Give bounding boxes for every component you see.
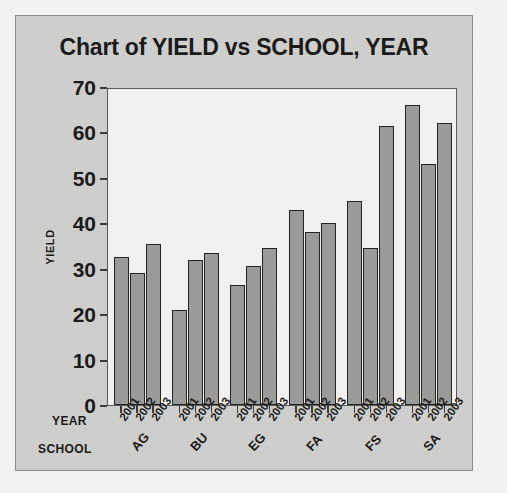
bar-series-container xyxy=(108,89,456,405)
bar-group xyxy=(225,89,283,405)
y-axis-tick-mark xyxy=(100,178,107,180)
scanned-page: Chart of YIELD vs SCHOOL, YEAR YIELD 010… xyxy=(0,0,507,493)
bar xyxy=(379,126,394,405)
chart-panel: Chart of YIELD vs SCHOOL, YEAR YIELD 010… xyxy=(15,15,473,471)
bar xyxy=(305,232,320,405)
bar xyxy=(230,285,245,405)
y-axis-tick-mark xyxy=(100,223,107,225)
bar xyxy=(262,248,277,405)
y-axis-tick-label: 10 xyxy=(73,349,96,373)
bar-group xyxy=(283,89,341,405)
y-axis-tick-label: 30 xyxy=(73,258,96,282)
plot-area xyxy=(107,88,457,406)
bar-group xyxy=(400,89,458,405)
y-axis-tick-mark xyxy=(100,314,107,316)
y-axis-tick-label: 70 xyxy=(73,76,96,100)
bar-group xyxy=(341,89,399,405)
year-axis-title: YEAR xyxy=(52,414,87,428)
y-axis: YIELD 010203040506070 xyxy=(16,88,107,406)
x-axis-school-label: AG xyxy=(128,430,152,455)
bar xyxy=(289,210,304,405)
y-axis-tick-mark xyxy=(100,405,107,407)
y-axis-tick-mark xyxy=(100,269,107,271)
bar xyxy=(363,248,378,405)
school-axis-title: SCHOOL xyxy=(38,442,92,456)
y-axis-tick-mark xyxy=(100,360,107,362)
bar xyxy=(172,310,187,405)
bar xyxy=(421,164,436,405)
bar xyxy=(405,105,420,405)
x-axis-school-label: EG xyxy=(245,430,269,454)
x-axis-school-label: SA xyxy=(420,431,443,454)
chart-title: Chart of YIELD vs SCHOOL, YEAR xyxy=(16,34,472,61)
y-axis-tick-label: 50 xyxy=(73,167,96,191)
bar-group xyxy=(108,89,166,405)
bar xyxy=(321,223,336,405)
y-axis-tick-mark xyxy=(100,87,107,89)
x-axis-school-label: BU xyxy=(187,430,211,454)
bar xyxy=(204,253,219,405)
bar-group xyxy=(166,89,224,405)
y-axis-tick-label: 60 xyxy=(73,121,96,145)
bar xyxy=(437,123,452,405)
bar xyxy=(146,244,161,405)
bar xyxy=(114,257,129,405)
bar xyxy=(347,201,362,405)
bar xyxy=(246,266,261,405)
bar xyxy=(130,273,145,405)
y-axis-tick-label: 20 xyxy=(73,303,96,327)
x-axis-school-label: FS xyxy=(362,432,384,454)
y-axis-tick-label: 40 xyxy=(73,212,96,236)
y-axis-title: YIELD xyxy=(44,229,56,264)
x-axis-school-label: FA xyxy=(303,432,325,454)
y-axis-tick-mark xyxy=(100,132,107,134)
bar xyxy=(188,260,203,405)
